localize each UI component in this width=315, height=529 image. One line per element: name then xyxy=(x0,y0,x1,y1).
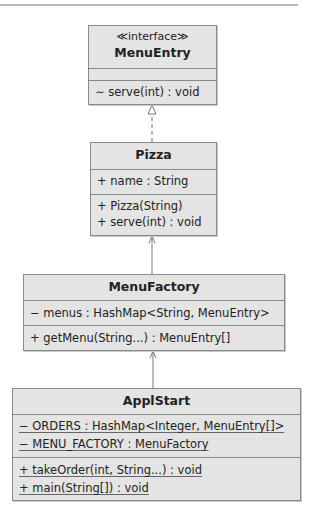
attributes-section: − menus : HashMap<String, MenuEntry> xyxy=(24,300,284,325)
class-menuentry[interactable]: ≪interface≫ MenuEntry ∼ serve(int) : voi… xyxy=(88,25,217,105)
operations-section: + getMenu(String...) : MenuEntry[] xyxy=(24,325,284,350)
operation: + serve(int) : void xyxy=(97,214,210,230)
static-attribute: − ORDERS : HashMap<Integer, MenuEntry[]> xyxy=(19,419,284,433)
realization-arrowhead-icon xyxy=(148,105,156,114)
attribute: − menus : HashMap<String, MenuEntry> xyxy=(30,305,278,321)
class-name: MenuFactory xyxy=(30,278,278,296)
class-applstart[interactable]: ApplStart − ORDERS : HashMap<Integer, Me… xyxy=(12,388,301,501)
attributes-section: + name : String xyxy=(91,169,216,194)
operations-section: + takeOrder(int, String...) : void + mai… xyxy=(13,457,300,500)
class-menufactory[interactable]: MenuFactory − menus : HashMap<String, Me… xyxy=(23,274,285,351)
class-name: MenuEntry xyxy=(95,44,210,62)
static-operation: + takeOrder(int, String...) : void xyxy=(19,463,202,477)
static-operation: + main(String[]) : void xyxy=(19,481,149,495)
operations-section: ∼ serve(int) : void xyxy=(89,80,216,104)
operation: ∼ serve(int) : void xyxy=(95,84,210,100)
class-name: ApplStart xyxy=(19,392,294,410)
static-attribute: − MENU_FACTORY : MenuFactory xyxy=(19,437,209,451)
attribute: + name : String xyxy=(97,173,210,189)
operation: + Pizza(String) xyxy=(97,198,210,214)
operation: + getMenu(String...) : MenuEntry[] xyxy=(30,330,278,346)
operations-section: + Pizza(String) + serve(int) : void xyxy=(91,194,216,235)
attributes-section: − ORDERS : HashMap<Integer, MenuEntry[]>… xyxy=(13,414,300,457)
class-name: Pizza xyxy=(97,146,210,164)
class-pizza[interactable]: Pizza + name : String + Pizza(String) + … xyxy=(90,142,217,236)
attributes-section xyxy=(89,68,216,80)
stereotype-label: ≪interface≫ xyxy=(95,26,210,44)
